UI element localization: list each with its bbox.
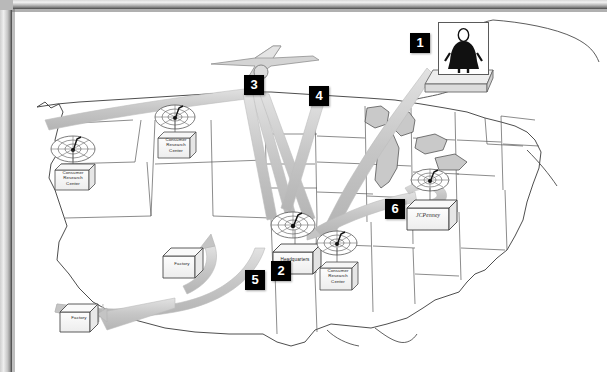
marker-4[interactable]: 4	[309, 86, 329, 106]
research-center-label-2: Consumer Research Center	[159, 137, 193, 153]
frame-left-edge	[0, 0, 12, 372]
marker-1[interactable]: 1	[410, 33, 430, 53]
customer-photo-frame	[438, 22, 489, 75]
marker-6[interactable]: 6	[385, 199, 405, 219]
frame-inner-shadow-top	[12, 9, 607, 12]
frame-corner	[0, 0, 13, 10]
map-canvas: Consumer Research Center Consumer Resear…	[15, 12, 607, 372]
airplane-icon	[211, 46, 319, 79]
diagram-stage: Consumer Research Center Consumer Resear…	[0, 0, 607, 372]
marker-2[interactable]: 2	[271, 261, 291, 281]
research-center-label-3: Consumer Research Center	[321, 268, 355, 284]
factory-label-1: Factory	[165, 261, 199, 266]
gulf-coast-detail	[327, 328, 417, 346]
marker-3[interactable]: 3	[244, 75, 264, 95]
research-center-label-1: Consumer Research Center	[56, 170, 90, 186]
satellite-dish-icon	[271, 212, 315, 238]
frame-top-edge	[0, 0, 607, 9]
factory-label-2: Factory	[62, 315, 96, 320]
store-label: JCPenney	[416, 212, 440, 218]
us-map-svg	[15, 12, 607, 372]
marker-5[interactable]: 5	[245, 270, 265, 290]
satellite-dish-icon	[411, 169, 449, 191]
frame-inner-shadow-left	[12, 9, 15, 372]
shopper-person-icon	[439, 23, 488, 74]
